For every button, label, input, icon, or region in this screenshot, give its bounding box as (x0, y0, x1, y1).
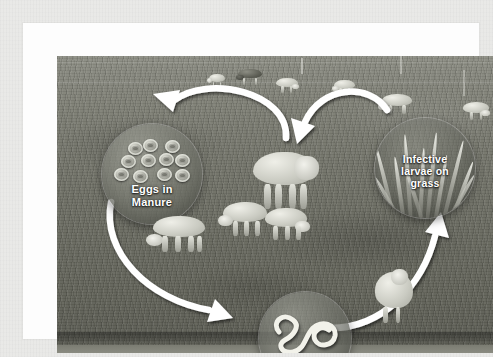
eggs-cluster-icon (102, 124, 202, 224)
node-eggs-label-line-2: Manure (102, 196, 202, 208)
node-eggs-label-line-1: Eggs in (102, 183, 202, 195)
egg (114, 168, 129, 181)
photo-frame: Eggs in Manure Larvae (23, 23, 479, 339)
egg (143, 139, 158, 152)
egg (159, 153, 174, 166)
node-eggs-in-manure[interactable]: Eggs in Manure (102, 124, 202, 224)
egg (141, 154, 156, 167)
pasture-photograph: Eggs in Manure Larvae (57, 56, 493, 353)
arrow-grass-to-sheep (291, 92, 387, 144)
egg (133, 170, 148, 183)
figure-canvas: Eggs in Manure Larvae (0, 0, 493, 357)
egg (165, 140, 180, 153)
node-grass-label: Infective larvae on grass (375, 154, 475, 189)
egg (128, 142, 143, 155)
egg (175, 169, 190, 182)
node-infective-larvae-on-grass[interactable]: Infective larvae on grass (375, 118, 475, 218)
node-eggs-label: Eggs in Manure (102, 183, 202, 208)
coiled-worm-icon (259, 302, 351, 353)
egg (175, 154, 190, 167)
node-grass-label-line-2: larvae on (375, 166, 475, 178)
node-grass-label-line-1: Infective (375, 154, 475, 166)
node-grass-label-line-3: grass (375, 178, 475, 190)
egg (121, 155, 136, 168)
node-larvae[interactable]: Larvae (259, 292, 351, 353)
egg (157, 168, 172, 181)
